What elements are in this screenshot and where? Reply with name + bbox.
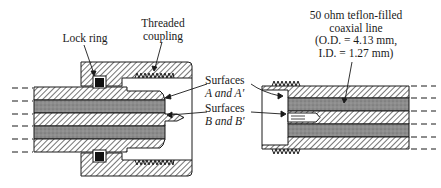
coax-line2: coaxial line bbox=[300, 22, 412, 35]
left-dash-lines bbox=[12, 88, 33, 152]
left-dielectric-top bbox=[34, 100, 165, 113]
label-coax-line: 50 ohm teflon-filled coaxial line (O.D. … bbox=[300, 9, 412, 59]
left-center-pin bbox=[34, 113, 184, 126]
surfaces-a-line1: Surfaces bbox=[205, 74, 245, 87]
right-connector bbox=[262, 81, 436, 154]
surfaces-b-line1: Surfaces bbox=[205, 102, 245, 115]
threads-top-right bbox=[272, 81, 300, 86]
left-dielectric-bottom bbox=[34, 126, 165, 139]
label-surfaces-a: Surfaces A and A′ bbox=[205, 74, 245, 99]
label-lock-ring: Lock ring bbox=[62, 32, 108, 45]
right-outer-conductor-bottom bbox=[262, 137, 409, 149]
coax-line4: I.D. = 1.27 mm) bbox=[300, 47, 412, 60]
right-dash-lines bbox=[411, 86, 436, 149]
left-connector bbox=[12, 62, 192, 176]
surfaces-b-line2: B and B′ bbox=[205, 115, 245, 128]
lock-ring-top-fill bbox=[95, 78, 104, 87]
lock-ring-bottom-fill bbox=[95, 152, 104, 161]
lock-ring-text: Lock ring bbox=[62, 32, 108, 45]
coax-line1: 50 ohm teflon-filled bbox=[300, 9, 412, 22]
right-center-socket bbox=[288, 113, 320, 122]
coax-line3: (O.D. = 4.13 mm, bbox=[300, 34, 412, 47]
right-dielectric-top bbox=[288, 98, 409, 111]
left-outer-conductor-top bbox=[34, 87, 165, 100]
right-dielectric-bottom bbox=[288, 124, 409, 137]
threads-bottom-right bbox=[272, 149, 300, 154]
label-threaded-coupling: Threaded coupling bbox=[140, 17, 186, 42]
threaded-coupling-line2: coupling bbox=[140, 30, 186, 43]
label-surfaces-b: Surfaces B and B′ bbox=[205, 102, 245, 127]
surfaces-a-line2: A and A′ bbox=[205, 87, 245, 100]
right-outer-conductor-top bbox=[262, 86, 409, 98]
threaded-coupling-line1: Threaded bbox=[140, 17, 186, 30]
